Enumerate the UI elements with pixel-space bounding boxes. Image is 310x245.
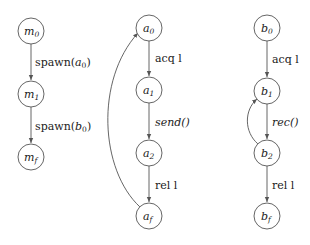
edge-label-m1-mf: spawn(b0) [35, 120, 91, 134]
node-mf: mf [18, 144, 44, 170]
edge-af-a0-loop [108, 33, 140, 207]
edge-b2-b1-loop [247, 99, 258, 144]
machine-m: spawn(a0) spawn(b0) m0 m1 mf [18, 18, 91, 170]
node-m0: m0 [18, 18, 44, 44]
machine-b: acq l rec() rel l b0 b1 b2 bf [247, 15, 299, 229]
state-diagram: spawn(a0) spawn(b0) m0 m1 mf acq l send(… [0, 0, 310, 245]
edge-label-a1-a2: send() [155, 116, 190, 129]
machine-a: acq l send() rel l a0 a1 a2 af [108, 15, 190, 229]
node-a2: a2 [136, 140, 162, 166]
edge-label-b1-b2: rec() [272, 116, 299, 129]
node-a0: a0 [136, 15, 162, 41]
node-m1: m1 [18, 81, 44, 107]
node-b0: b0 [254, 15, 280, 41]
edge-label-b2-bf: rel l [272, 179, 295, 192]
node-a1: a1 [136, 77, 162, 103]
edge-label-a0-a1: acq l [155, 52, 182, 65]
node-b1: b1 [254, 78, 280, 104]
node-bf: bf [254, 203, 280, 229]
node-b2: b2 [254, 140, 280, 166]
diagram-svg: spawn(a0) spawn(b0) m0 m1 mf acq l send(… [0, 0, 310, 245]
node-af: af [136, 203, 162, 229]
edge-label-b0-b1: acq l [272, 53, 299, 66]
edge-label-a2-af: rel l [155, 179, 178, 192]
edge-label-m0-m1: spawn(a0) [35, 56, 91, 70]
